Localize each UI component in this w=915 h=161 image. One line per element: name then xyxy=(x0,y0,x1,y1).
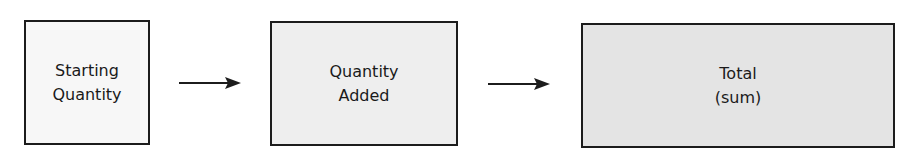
total-sum-label-line2: (sum) xyxy=(715,86,762,110)
total-sum-label-line1: Total xyxy=(719,62,756,86)
starting-quantity-label-line1: Starting xyxy=(55,59,119,83)
quantity-added-label-line1: Quantity xyxy=(329,60,398,84)
quantity-added-label-line2: Added xyxy=(339,84,390,108)
quantity-added-box: Quantity Added xyxy=(270,21,458,146)
starting-quantity-box: Starting Quantity xyxy=(24,20,150,145)
arrow-right-icon xyxy=(488,78,550,90)
starting-quantity-label-line2: Quantity xyxy=(52,83,121,107)
arrow-right-icon xyxy=(179,77,241,89)
total-sum-box: Total (sum) xyxy=(581,23,895,148)
